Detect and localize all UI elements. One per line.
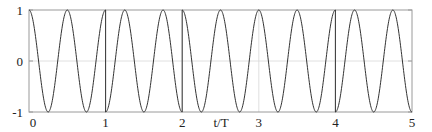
x-tick-label: 4 — [332, 115, 339, 130]
y-tick-label: -1 — [12, 105, 23, 120]
x-axis-title: t/T — [213, 115, 228, 130]
grid-lines — [29, 10, 412, 112]
bpsk-waveform-chart: 012345 -101 t/T — [0, 0, 432, 132]
x-tick-label: 0 — [30, 115, 37, 130]
y-tick-label: 1 — [17, 3, 24, 18]
y-tick-labels: -101 — [12, 3, 23, 120]
x-tick-label: 1 — [102, 115, 109, 130]
x-tick-label: 5 — [409, 115, 416, 130]
x-tick-label: 3 — [256, 115, 263, 130]
y-tick-label: 0 — [17, 54, 24, 69]
x-tick-label: 2 — [179, 115, 186, 130]
